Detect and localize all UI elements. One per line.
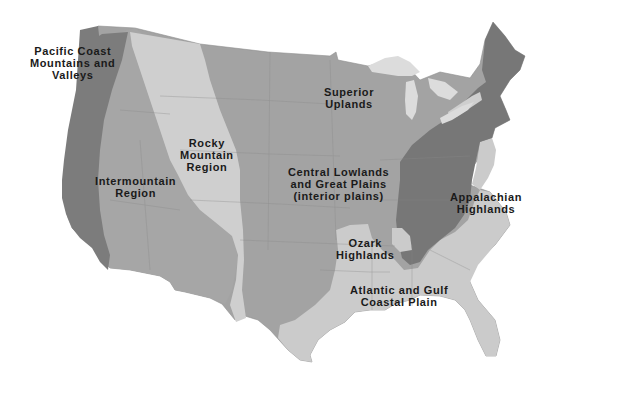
label-line: Appalachian — [450, 191, 522, 203]
label-superior-uplands: Superior Uplands — [324, 86, 374, 110]
label-line: Superior — [324, 86, 374, 98]
label-line: Atlantic and Gulf — [350, 284, 448, 296]
label-rocky-mountain: Rocky Mountain Region — [180, 137, 234, 173]
label-coastal-plain: Atlantic and Gulf Coastal Plain — [350, 284, 448, 308]
label-line: and Great Plains — [288, 178, 389, 190]
label-line: Mountains and — [30, 57, 115, 69]
label-line: Intermountain — [95, 175, 176, 187]
label-line: Central Lowlands — [288, 166, 389, 178]
label-line: Valleys — [30, 69, 115, 81]
label-appalachian: Appalachian Highlands — [450, 191, 522, 215]
label-line: Coastal Plain — [350, 296, 448, 308]
label-line: Region — [180, 161, 234, 173]
label-line: (interior plains) — [288, 190, 389, 202]
label-line: Uplands — [324, 98, 374, 110]
label-line: Ozark — [336, 237, 395, 249]
label-line: Highlands — [336, 249, 395, 261]
label-central-lowlands: Central Lowlands and Great Plains (inter… — [288, 166, 389, 202]
label-line: Pacific Coast — [30, 45, 115, 57]
label-line: Rocky — [180, 137, 234, 149]
label-line: Region — [95, 187, 176, 199]
label-line: Mountain — [180, 149, 234, 161]
label-pacific-coast: Pacific Coast Mountains and Valleys — [30, 45, 115, 81]
label-line: Highlands — [450, 203, 522, 215]
label-intermountain: Intermountain Region — [95, 175, 176, 199]
label-ozark: Ozark Highlands — [336, 237, 395, 261]
